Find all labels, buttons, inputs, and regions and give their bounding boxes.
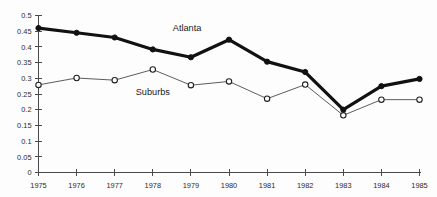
x-axis-tick-label: 1982	[297, 181, 313, 190]
series-label-suburbs: Suburbs	[136, 87, 171, 97]
x-axis-tick-label: 1977	[106, 181, 122, 190]
data-point-suburbs-1977	[112, 77, 117, 82]
data-point-suburbs-1981	[264, 96, 269, 101]
series-label-atlanta: Atlanta	[173, 23, 202, 33]
data-point-atlanta-1977	[112, 35, 117, 40]
data-point-atlanta-1980	[226, 37, 231, 42]
y-axis-tick-label: 0.3	[21, 74, 31, 83]
y-axis-tick-label: 0.5	[21, 11, 31, 20]
chart-canvas: 00.050.10.150.20.250.30.350.40.450.5 197…	[0, 0, 437, 197]
data-point-atlanta-1982	[303, 69, 308, 74]
x-axis: 1975197619771978197919801981198219831984…	[30, 169, 427, 190]
x-axis-tick-label: 1985	[411, 181, 427, 190]
x-axis-tick-label: 1978	[145, 181, 161, 190]
data-point-suburbs-1976	[74, 75, 79, 80]
y-axis-tick-label: 0.15	[17, 121, 31, 130]
y-axis-tick-label: 0.45	[17, 27, 31, 36]
x-axis-tick-label: 1981	[259, 181, 275, 190]
x-axis-tick-label: 1976	[68, 181, 84, 190]
data-point-suburbs-1985	[417, 97, 422, 102]
y-axis-tick-label: 0.35	[17, 58, 31, 67]
x-axis-tick-label: 1980	[221, 181, 237, 190]
data-point-suburbs-1984	[379, 97, 384, 102]
data-point-suburbs-1978	[150, 67, 155, 72]
data-point-atlanta-1975	[36, 25, 41, 30]
y-axis-tick-label: 0	[27, 168, 31, 177]
data-point-suburbs-1979	[188, 83, 193, 88]
data-series-layer	[36, 25, 422, 118]
data-point-suburbs-1980	[226, 79, 231, 84]
x-axis-tick-label: 1984	[373, 181, 389, 190]
data-point-suburbs-1983	[341, 113, 346, 118]
y-axis-tick-label: 0.25	[17, 90, 31, 99]
y-axis: 00.050.10.150.20.250.30.350.40.450.5	[17, 11, 42, 177]
data-point-suburbs-1975	[36, 82, 41, 87]
data-point-atlanta-1984	[379, 84, 384, 89]
series-line-suburbs	[39, 70, 420, 116]
y-axis-tick-label: 0.2	[21, 105, 31, 114]
data-point-atlanta-1981	[265, 59, 270, 64]
y-axis-tick-label: 0.05	[17, 153, 31, 162]
x-axis-tick-label: 1979	[183, 181, 199, 190]
y-axis-tick-label: 0.1	[21, 137, 31, 146]
x-axis-tick-label: 1983	[335, 181, 351, 190]
data-point-atlanta-1978	[150, 47, 155, 52]
data-point-atlanta-1985	[417, 76, 422, 81]
x-axis-tick-label: 1975	[30, 181, 46, 190]
y-axis-tick-label: 0.4	[21, 43, 31, 52]
data-point-suburbs-1982	[303, 82, 308, 87]
data-point-atlanta-1976	[74, 30, 79, 35]
data-point-atlanta-1979	[188, 55, 193, 60]
line-chart: 00.050.10.150.20.250.30.350.40.450.5 197…	[0, 0, 437, 197]
data-point-atlanta-1983	[341, 107, 346, 112]
